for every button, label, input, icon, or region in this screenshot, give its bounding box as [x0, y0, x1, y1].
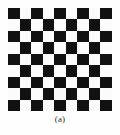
checker-square	[31, 42, 43, 53]
checker-square	[89, 100, 101, 111]
checker-square	[66, 54, 78, 65]
checker-square	[20, 65, 32, 76]
checker-square	[54, 100, 66, 111]
checker-square	[8, 88, 20, 99]
checker-square	[89, 77, 101, 88]
checker-square	[54, 77, 66, 88]
checker-square	[31, 88, 43, 99]
checker-square	[54, 19, 66, 30]
checker-square	[43, 8, 55, 19]
checker-square	[100, 88, 112, 99]
checker-square	[77, 88, 89, 99]
checker-square	[43, 77, 55, 88]
checker-square	[100, 19, 112, 30]
checker-square	[8, 54, 20, 65]
checker-square	[20, 88, 32, 99]
checker-square	[54, 8, 66, 19]
checker-square	[100, 65, 112, 76]
checker-square	[43, 88, 55, 99]
checker-square	[66, 8, 78, 19]
checker-square	[77, 8, 89, 19]
checker-square	[54, 65, 66, 76]
checker-square	[89, 19, 101, 30]
checker-square	[77, 100, 89, 111]
checker-square	[43, 31, 55, 42]
checker-square	[77, 65, 89, 76]
checker-square	[20, 31, 32, 42]
checker-square	[31, 65, 43, 76]
checker-square	[100, 100, 112, 111]
checker-square	[77, 19, 89, 30]
checker-square	[54, 88, 66, 99]
checker-square	[66, 31, 78, 42]
checker-square	[77, 77, 89, 88]
checker-square	[66, 65, 78, 76]
checker-square	[66, 77, 78, 88]
checker-square	[66, 42, 78, 53]
checker-square	[89, 65, 101, 76]
checker-square	[100, 8, 112, 19]
checker-square	[20, 77, 32, 88]
checker-square	[31, 31, 43, 42]
checker-square	[77, 42, 89, 53]
checker-square	[89, 31, 101, 42]
checker-square	[20, 8, 32, 19]
checker-square	[100, 54, 112, 65]
checker-square	[8, 77, 20, 88]
checker-square	[43, 100, 55, 111]
checker-square	[66, 100, 78, 111]
checker-square	[20, 54, 32, 65]
checker-square	[89, 42, 101, 53]
checker-square	[100, 31, 112, 42]
checker-square	[100, 42, 112, 53]
checker-square	[89, 54, 101, 65]
figure-caption: (a)	[0, 113, 120, 126]
checker-square	[20, 42, 32, 53]
checker-square	[8, 8, 20, 19]
checker-square	[8, 31, 20, 42]
checker-square	[89, 8, 101, 19]
checker-square	[43, 19, 55, 30]
checker-square	[100, 77, 112, 88]
checkerboard-image	[8, 8, 112, 111]
checker-square	[20, 19, 32, 30]
checker-square	[66, 88, 78, 99]
checker-square	[20, 100, 32, 111]
checker-square	[54, 42, 66, 53]
checker-square	[77, 54, 89, 65]
checker-square	[8, 100, 20, 111]
checker-square	[66, 19, 78, 30]
figure-container: (a)	[0, 0, 120, 135]
checker-square	[31, 19, 43, 30]
checker-square	[31, 77, 43, 88]
checker-square	[31, 54, 43, 65]
checker-square	[77, 31, 89, 42]
checker-square	[43, 54, 55, 65]
checker-square	[43, 42, 55, 53]
checker-square	[8, 42, 20, 53]
checker-square	[31, 100, 43, 111]
checker-square	[54, 54, 66, 65]
checker-square	[89, 88, 101, 99]
checker-square	[43, 65, 55, 76]
checker-square	[31, 8, 43, 19]
checker-square	[8, 65, 20, 76]
checker-square	[54, 31, 66, 42]
checker-square	[8, 19, 20, 30]
